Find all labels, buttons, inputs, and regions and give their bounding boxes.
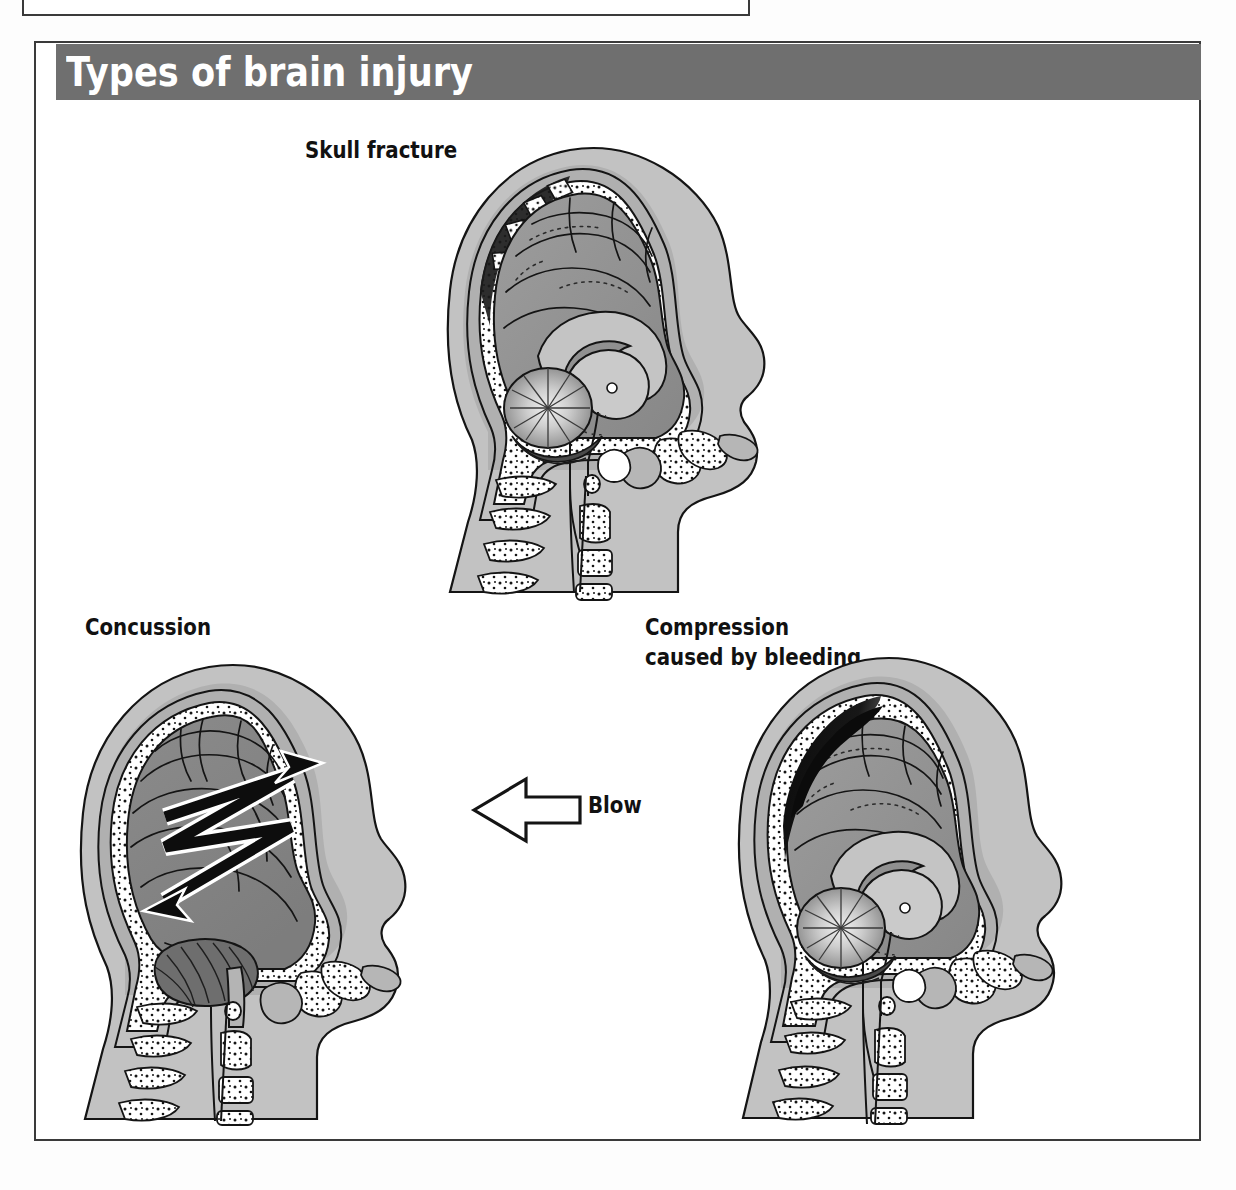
label-concussion: Concussion: [85, 612, 211, 642]
figure-skull-fracture: [420, 140, 890, 600]
page-top-fragment-box: [22, 0, 750, 16]
page-title: Types of brain injury: [66, 48, 473, 96]
blow-arrow: [470, 775, 600, 845]
label-compression-line1: Compression: [645, 612, 861, 642]
figure-concussion: [45, 655, 525, 1125]
figure-compression: [705, 648, 1185, 1126]
